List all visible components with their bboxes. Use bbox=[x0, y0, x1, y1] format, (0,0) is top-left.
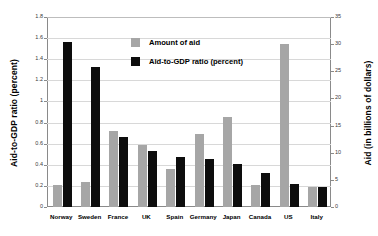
x-axis-label: Japan bbox=[217, 213, 245, 220]
x-axis-label: Canada bbox=[246, 213, 274, 220]
legend-label: Aid-to-GDP ratio (percent) bbox=[149, 57, 243, 66]
bar-amount-of-aid bbox=[53, 185, 62, 207]
bar-amount-of-aid bbox=[280, 44, 289, 207]
y-axis-left-tick-label: 1.8 bbox=[13, 14, 43, 20]
bar-aid-to-gdp-ratio bbox=[176, 157, 185, 207]
bar-amount-of-aid bbox=[138, 145, 147, 207]
y-axis-right-title: Aid (in billions of dollars) bbox=[363, 43, 373, 183]
y-axis-left-tickmark bbox=[44, 186, 47, 187]
bar-amount-of-aid bbox=[308, 187, 317, 207]
legend-swatch-icon bbox=[131, 38, 140, 47]
y-axis-right-tick-label: 35 bbox=[335, 14, 365, 20]
legend-label: Amount of aid bbox=[149, 38, 200, 47]
y-axis-right-tickmark bbox=[331, 207, 334, 208]
bar-aid-to-gdp-ratio bbox=[318, 187, 327, 207]
y-axis-left-tick-label: 0.2 bbox=[13, 183, 43, 189]
x-axis-label: France bbox=[104, 213, 132, 220]
y-axis-left-tickmark bbox=[44, 59, 47, 60]
y-axis-left-tick-label: 1.2 bbox=[13, 77, 43, 83]
bar-amount-of-aid bbox=[166, 169, 175, 207]
y-axis-right-tick-label: 30 bbox=[335, 41, 365, 47]
y-axis-right-tick-label: 5 bbox=[335, 177, 365, 183]
y-axis-left-tickmark bbox=[44, 101, 47, 102]
y-axis-left-tickmark bbox=[44, 207, 47, 208]
y-axis-left-tick-label: 0.6 bbox=[13, 141, 43, 147]
bar-aid-to-gdp-ratio bbox=[91, 67, 100, 207]
y-axis-left-tickmark bbox=[44, 17, 47, 18]
bar-amount-of-aid bbox=[195, 134, 204, 207]
bar-aid-to-gdp-ratio bbox=[205, 159, 214, 207]
y-axis-left-tickmark bbox=[44, 123, 47, 124]
y-axis-left-tickmark bbox=[44, 80, 47, 81]
y-axis-left-tick-label: 1.4 bbox=[13, 56, 43, 62]
y-axis-left-tickmark bbox=[44, 144, 47, 145]
bar-aid-to-gdp-ratio bbox=[233, 164, 242, 207]
y-axis-left-tick-label: 1 bbox=[13, 98, 43, 104]
y-axis-right-tick-label: 0 bbox=[335, 204, 365, 210]
legend-item: Aid-to-GDP ratio (percent) bbox=[131, 57, 243, 66]
y-axis-left-tick-label: 0.8 bbox=[13, 120, 43, 126]
bar-group bbox=[304, 17, 332, 207]
x-axis-label: Spain bbox=[161, 213, 189, 220]
x-axis-label: Norway bbox=[47, 213, 75, 220]
bar-aid-to-gdp-ratio bbox=[119, 137, 128, 207]
bar-group bbox=[275, 17, 303, 207]
x-axis-label: UK bbox=[132, 213, 160, 220]
y-axis-right-tick-label: 15 bbox=[335, 123, 365, 129]
y-axis-left-tick-label: 0.4 bbox=[13, 162, 43, 168]
bar-amount-of-aid bbox=[251, 185, 260, 207]
chart-container: Aid-to-GDP ratio (percent) Aid (in billi… bbox=[0, 0, 378, 236]
y-axis-right-tick-label: 20 bbox=[335, 95, 365, 101]
y-axis-left-tickmark bbox=[44, 38, 47, 39]
bar-group bbox=[105, 17, 133, 207]
bar-aid-to-gdp-ratio bbox=[261, 173, 270, 207]
y-axis-right-tick-label: 25 bbox=[335, 68, 365, 74]
x-axis-label: Germany bbox=[189, 213, 217, 220]
bar-amount-of-aid bbox=[81, 182, 90, 207]
x-axis-label: US bbox=[274, 213, 302, 220]
bar-group bbox=[48, 17, 76, 207]
legend-item: Amount of aid bbox=[131, 38, 243, 47]
chart-legend: Amount of aidAid-to-GDP ratio (percent) bbox=[131, 38, 243, 76]
bar-aid-to-gdp-ratio bbox=[290, 184, 299, 207]
bar-amount-of-aid bbox=[109, 131, 118, 207]
bar-group bbox=[247, 17, 275, 207]
x-axis-label: Italy bbox=[303, 213, 331, 220]
bar-group bbox=[76, 17, 104, 207]
y-axis-left-tickmark bbox=[44, 165, 47, 166]
y-axis-right-tick-label: 10 bbox=[335, 150, 365, 156]
legend-swatch-icon bbox=[131, 57, 140, 66]
y-axis-left-tick-label: 1.6 bbox=[13, 35, 43, 41]
bar-aid-to-gdp-ratio bbox=[63, 42, 72, 207]
x-axis-label: Sweden bbox=[75, 213, 103, 220]
bar-aid-to-gdp-ratio bbox=[148, 151, 157, 207]
bar-amount-of-aid bbox=[223, 117, 232, 207]
y-axis-left-tick-label: 0 bbox=[13, 204, 43, 210]
